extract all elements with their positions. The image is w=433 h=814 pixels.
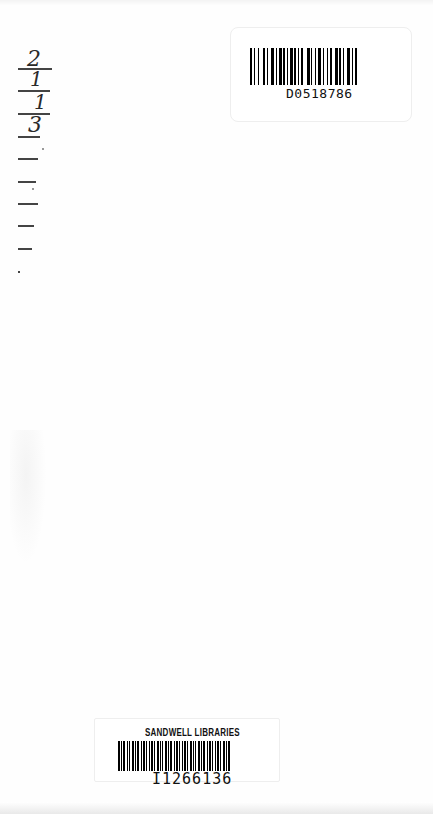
date-line-9: [18, 248, 32, 250]
date-line-7: [18, 203, 38, 205]
date-line-6: [18, 181, 36, 183]
top-barcode-number: D0518786: [286, 86, 353, 101]
handwritten-entry-4: 3: [28, 114, 42, 136]
library-name: SANDWELL LIBRARIES: [145, 727, 240, 738]
ink-speck: [42, 148, 44, 150]
date-line-8: [18, 225, 34, 227]
handwritten-entry-3: 1: [34, 92, 47, 112]
page-bottom-edge: [0, 802, 433, 814]
barcode-bottom: [118, 741, 264, 771]
barcode-top: [250, 48, 388, 85]
bottom-barcode-number: I1266136: [152, 770, 232, 788]
page-top-edge: [0, 0, 433, 6]
ink-speck: [32, 188, 34, 190]
date-line-10: [18, 271, 20, 273]
scanned-page: 2 1 1 3 D0518786: [0, 0, 433, 814]
date-line-5: [18, 158, 38, 160]
handwritten-entry-2: 1: [30, 69, 43, 89]
faint-show-through: [10, 430, 50, 580]
date-due-strip: 2 1 1 3: [18, 50, 58, 290]
